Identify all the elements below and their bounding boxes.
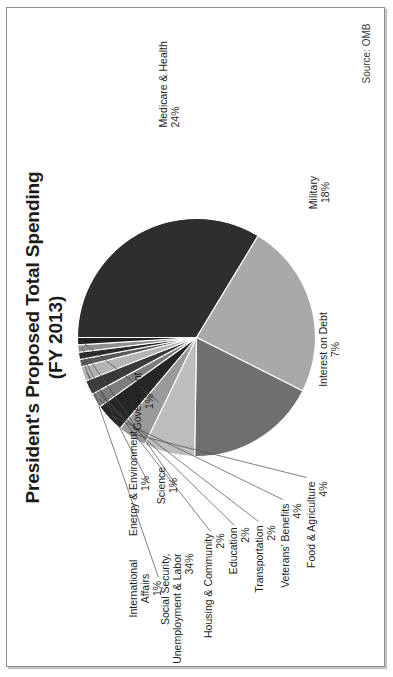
slice-label-transportation-text: Transportation: [252, 525, 264, 592]
slice-label-interest-on-debt: Interest on Debt 7%: [316, 299, 340, 399]
slice-label-military-text: Military: [306, 175, 318, 208]
slice-label-veterans-benefits: Veterans' Benefits 4%: [278, 503, 302, 623]
slice-label-medicare-health: Medicare & Health 24%: [156, 0, 180, 127]
slice-label-education-text: Education: [226, 527, 238, 574]
slice-pct-science: 1%: [166, 453, 178, 517]
figure-frame: President's Proposed Total Spending (FY …: [6, 7, 385, 667]
slice-label-housing-community-text: Housing & Community: [201, 533, 213, 637]
slice-pct-social-security: 34%: [182, 553, 194, 677]
slice-label-interest-on-debt-text: Interest on Debt: [316, 312, 328, 387]
slice-label-science: Science 1%: [154, 453, 178, 517]
figure-page: President's Proposed Total Spending (FY …: [0, 0, 393, 677]
slice-pct-government: 1%: [142, 359, 154, 443]
slice-label-government-text: Government: [130, 372, 142, 430]
slice-pct-veterans-benefits: 4%: [290, 503, 302, 623]
slice-label-housing-community: Housing & Community 2%: [201, 533, 225, 677]
slice-pct-education: 2%: [238, 527, 250, 647]
slice-pct-military: 18%: [318, 147, 330, 237]
figure-stage: President's Proposed Total Spending (FY …: [6, 7, 385, 667]
slice-pct-transportation: 2%: [264, 525, 276, 645]
slice-label-military: Military 18%: [306, 147, 330, 237]
slice-label-international-affairs-line2: Affairs: [138, 573, 150, 603]
slice-label-medicare-health-text: Medicare & Health: [156, 41, 168, 127]
slice-pct-housing-community: 2%: [213, 533, 225, 677]
slice-label-food-agriculture-text: Food & Agriculture: [304, 481, 316, 567]
slice-label-energy-environment-text: Energy & Environment: [126, 430, 138, 535]
slice-label-education: Education 2%: [226, 527, 250, 647]
slice-pct-food-agriculture: 4%: [316, 481, 328, 601]
slice-pct-international-affairs: 1%: [150, 545, 162, 631]
slice-pct-interest-on-debt: 7%: [328, 299, 340, 399]
slice-label-international-affairs: International Affairs 1%: [126, 545, 163, 631]
pie-slice-group: [77, 218, 315, 456]
slice-label-social-security: Social Security, Unemployment & Labor 34…: [158, 553, 195, 677]
slice-label-science-text: Science: [154, 466, 166, 503]
slice-label-government: Government 1%: [130, 359, 154, 443]
slice-label-social-security-line2: Unemployment & Labor: [170, 553, 182, 663]
slice-label-veterans-benefits-text: Veterans' Benefits: [278, 503, 290, 587]
slice-label-food-agriculture: Food & Agriculture 4%: [304, 481, 328, 601]
slice-label-international-affairs-line1: International: [126, 559, 138, 617]
slice-label-transportation: Transportation 2%: [252, 525, 276, 645]
slice-pct-medicare-health: 24%: [168, 0, 180, 127]
